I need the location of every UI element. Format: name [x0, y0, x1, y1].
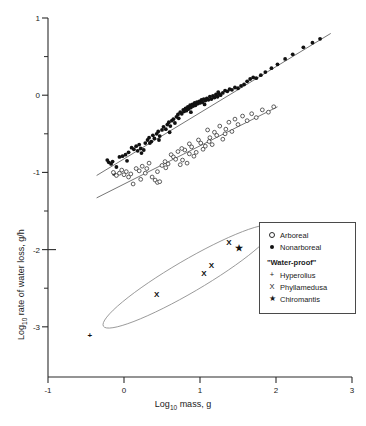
legend-item-arboreal: Arboreal: [266, 229, 350, 241]
data-point: [203, 103, 207, 107]
data-point: [242, 83, 246, 87]
data-point: [157, 138, 161, 142]
data-point: [145, 167, 149, 171]
x-tick-label: 3: [350, 386, 355, 395]
data-point: [318, 37, 322, 41]
data-point: [139, 177, 143, 181]
data-point: [259, 73, 263, 77]
y-axis-title-rest: rate of water loss, g/h: [16, 229, 26, 318]
data-point: [160, 164, 164, 168]
data-point: [218, 124, 222, 128]
legend-group-heading: "Water-proof": [267, 258, 350, 267]
data-point: [203, 144, 207, 148]
data-point: [210, 143, 214, 147]
legend-item-phyllamedusa: X Phyllamedusa: [266, 281, 350, 293]
data-point: [260, 108, 264, 112]
data-point: [176, 150, 180, 154]
data-point: [173, 121, 177, 125]
y-tick-label: 0: [36, 91, 41, 100]
data-point: [158, 180, 162, 184]
waterproof-marker: X: [201, 269, 207, 278]
y-tick-label: -2: [33, 246, 41, 255]
data-point: [185, 161, 189, 165]
x-marker-icon: X: [266, 283, 278, 291]
data-point: [206, 128, 210, 132]
legend-label-nonarboreal: Nonarboreal: [278, 243, 321, 252]
star-marker-icon: ★: [266, 295, 278, 303]
data-point: [158, 134, 162, 138]
data-point: [276, 62, 280, 66]
data-point: [223, 132, 227, 136]
data-point: [136, 149, 140, 153]
waterproof-marker: X: [209, 261, 215, 270]
data-point: [189, 110, 193, 114]
data-point: [215, 133, 219, 137]
y-axis-title-subscript: 10: [21, 318, 28, 325]
x-tick-label: 0: [122, 386, 127, 395]
legend-label-hyperolius: Hyperolius: [278, 271, 315, 280]
legend: Arboreal Nonarboreal "Water-proof" + Hyp…: [259, 222, 356, 314]
data-point: [199, 141, 203, 145]
x-tick-label: -1: [44, 386, 52, 395]
x-axis-title-base: Log: [155, 399, 170, 409]
waterproof-marker: +: [87, 331, 92, 340]
data-point: [127, 150, 131, 154]
data-point: [132, 147, 136, 151]
data-point: [192, 154, 196, 158]
y-axis-title-base: Log: [16, 325, 26, 340]
data-point: [283, 57, 287, 61]
data-point: [208, 136, 212, 140]
y-axis-title: Log10 rate of water loss, g/h: [16, 229, 28, 340]
waterproof-marker: X: [226, 238, 232, 247]
data-point: [311, 41, 315, 45]
data-point: [111, 171, 115, 175]
legend-item-chiromantis: ★ Chiromantis: [266, 293, 350, 305]
data-point: [174, 157, 178, 161]
data-point: [140, 164, 144, 168]
data-point: [164, 127, 168, 131]
data-point: [230, 88, 234, 92]
data-point: [115, 165, 119, 169]
data-point: [177, 116, 181, 120]
data-point: [216, 90, 220, 94]
data-point: [143, 141, 147, 145]
waterproof-marker: ★: [235, 243, 244, 253]
data-point: [168, 130, 172, 134]
data-point: [148, 141, 152, 145]
data-point: [140, 151, 144, 155]
data-point: [125, 159, 129, 163]
data-point: [153, 137, 157, 141]
y-tick-label: -1: [33, 168, 41, 177]
data-point: [150, 175, 154, 179]
plot-canvas: 10-1-2-3-10123+XXXX★: [0, 0, 366, 426]
data-point: [194, 150, 198, 154]
data-point: [190, 145, 194, 149]
data-point: [147, 136, 151, 140]
data-point: [236, 86, 240, 90]
y-tick-label: 1: [36, 14, 41, 23]
data-point: [120, 168, 124, 172]
data-point: [267, 110, 271, 114]
data-point: [111, 160, 115, 164]
x-tick-label: 1: [198, 386, 203, 395]
data-point: [245, 79, 249, 83]
data-point: [245, 119, 249, 123]
data-point: [178, 163, 182, 167]
y-tick-label: -3: [33, 323, 41, 332]
data-point: [241, 114, 245, 118]
data-point: [147, 161, 151, 165]
x-tick-label: 2: [274, 386, 279, 395]
data-point: [263, 70, 267, 74]
data-point: [301, 45, 305, 49]
open-circle-icon: [266, 231, 278, 239]
data-point: [166, 162, 170, 166]
regression-line: [97, 33, 331, 175]
x-axis-title: Log10 mass, g: [0, 399, 366, 411]
legend-label-arboreal: Arboreal: [278, 231, 308, 240]
data-point: [168, 124, 172, 128]
legend-item-hyperolius: + Hyperolius: [266, 269, 350, 281]
waterproof-marker: X: [154, 290, 160, 299]
data-point: [187, 152, 191, 156]
data-point: [137, 143, 141, 147]
data-point: [131, 182, 135, 186]
